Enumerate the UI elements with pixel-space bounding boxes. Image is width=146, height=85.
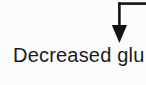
flowchart-fragment: Decreased glu [0, 0, 146, 85]
elbow-down-arrow-icon [106, 0, 146, 48]
decreased-glucose-label: Decreased glu [13, 45, 146, 69]
arrowhead-down [112, 25, 127, 43]
